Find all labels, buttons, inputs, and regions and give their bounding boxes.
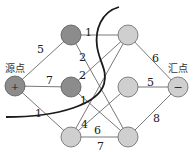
weight-a-f: 2 <box>79 51 86 64</box>
source-label: 源点 <box>5 62 25 74</box>
min-cut-curve <box>6 7 119 117</box>
node-d <box>118 25 138 45</box>
weight-s-b: 7 <box>46 74 53 87</box>
weight-c-e: 6 <box>94 124 101 137</box>
weight-b-f: 1 <box>80 94 87 107</box>
weight-a-d: 1 <box>85 26 92 39</box>
minus-icon: − <box>173 81 182 94</box>
flow-network-diagram: 5 7 1 1 2 2 1 4 6 7 6 5 8 + − 源点 汇点 <box>0 0 196 152</box>
weight-f-t: 8 <box>153 112 160 125</box>
node-c <box>61 127 81 147</box>
plus-icon: + <box>11 81 19 92</box>
weight-s-a: 5 <box>37 43 44 56</box>
sink-label: 汇点 <box>168 62 188 74</box>
weight-b-d: 2 <box>79 69 86 82</box>
weight-d-t: 6 <box>152 52 159 65</box>
weight-c-f: 7 <box>97 140 104 152</box>
node-f <box>118 127 138 147</box>
weight-c-d: 4 <box>81 118 88 131</box>
weight-s-c: 1 <box>35 107 42 120</box>
node-e <box>118 77 138 97</box>
weight-e-t: 5 <box>147 76 154 89</box>
node-b <box>61 77 81 97</box>
node-a <box>61 25 81 45</box>
